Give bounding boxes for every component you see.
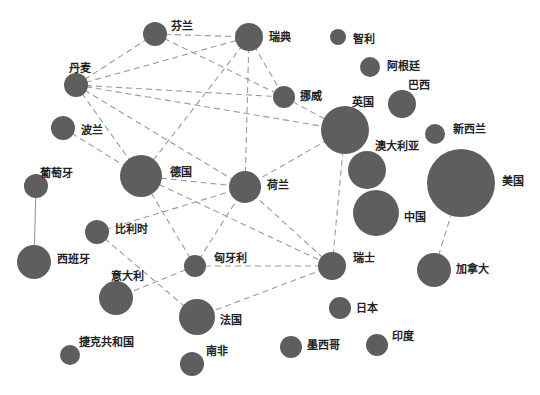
edge-finland-norway [155, 34, 284, 97]
edge-finland-sweden [155, 34, 249, 37]
node-label-china: 中国 [404, 210, 426, 224]
edge-denmark-sweden [76, 37, 249, 85]
node-label-poland: 波兰 [81, 123, 103, 137]
node-norway [273, 86, 295, 108]
node-label-mexico: 墨西哥 [307, 339, 340, 352]
edge-netherlands-switzerland [245, 187, 332, 266]
node-japan [329, 297, 351, 319]
node-australia [348, 151, 386, 189]
edge-sweden-netherlands [245, 37, 249, 187]
node-label-czech: 捷克共和国 [79, 335, 134, 349]
node-mexico [280, 336, 302, 358]
node-label-hungary: 匈牙利 [214, 251, 247, 265]
node-czech [60, 345, 80, 365]
node-germany [120, 155, 162, 197]
node-label-norway: 挪威 [300, 89, 322, 103]
node-argentina [360, 57, 380, 77]
edge-denmark-norway [76, 85, 284, 97]
node-label-argentina: 阿根廷 [387, 59, 421, 73]
node-label-newzealand: 新西兰 [453, 122, 486, 136]
node-poland [51, 116, 75, 140]
node-label-belgium: 比利时 [115, 222, 148, 236]
node-label-spain: 西班牙 [57, 252, 90, 266]
node-finland [143, 22, 167, 46]
node-chile [330, 29, 346, 45]
node-label-southafrica: 南非 [206, 344, 228, 358]
node-label-italy: 意大利 [111, 269, 144, 283]
node-newzealand [425, 124, 445, 144]
node-canada [417, 253, 451, 287]
node-label-finland: 芬兰 [170, 19, 193, 33]
node-brazil [388, 90, 416, 118]
node-spain [17, 245, 51, 279]
node-label-japan: 日本 [356, 301, 378, 315]
node-sweden [235, 23, 263, 51]
edge-denmark-finland [76, 34, 155, 85]
node-usa [427, 149, 495, 217]
node-denmark [64, 73, 88, 97]
node-netherlands [229, 171, 261, 203]
node-label-denmark: 丹麦 [69, 61, 92, 75]
node-label-india: 印度 [392, 329, 415, 343]
node-china [353, 190, 399, 236]
node-label-chile: 智利 [353, 32, 375, 46]
node-hungary [184, 255, 206, 277]
node-label-germany: 德国 [169, 165, 192, 179]
node-label-uk: 英国 [351, 95, 374, 109]
node-southafrica [180, 352, 204, 376]
node-label-brazil: 巴西 [408, 79, 430, 92]
node-france [179, 299, 215, 335]
node-label-sweden: 瑞典 [269, 30, 291, 44]
edge-sweden-germany [141, 37, 249, 176]
node-label-france: 法国 [220, 313, 242, 327]
edge-france-switzerland [197, 266, 332, 317]
node-uk [321, 106, 369, 154]
network-diagram: 芬兰瑞典智利丹麦阿根廷挪威巴西英国波兰新西兰澳大利亚美国德国荷兰葡萄牙中国比利时… [0, 0, 540, 395]
node-label-switzerland: 瑞士 [353, 251, 375, 265]
node-label-canada: 加拿大 [455, 262, 489, 276]
node-switzerland [318, 252, 346, 280]
node-india [366, 334, 388, 356]
node-label-portugal: 葡萄牙 [39, 166, 73, 180]
node-label-australia: 澳大利亚 [375, 139, 419, 153]
nodes-layer [17, 22, 495, 376]
node-label-usa: 美国 [502, 174, 524, 188]
node-label-netherlands: 荷兰 [266, 178, 289, 192]
node-belgium [85, 220, 109, 244]
node-italy [99, 281, 133, 315]
